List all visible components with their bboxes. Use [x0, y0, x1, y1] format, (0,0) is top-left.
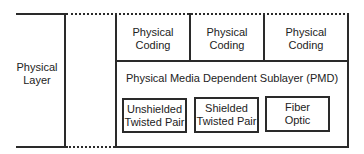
physical-coding-3-line2: Coding	[265, 39, 347, 52]
pmd-title: Physical Media Dependent Sublayer (PMD)	[117, 72, 347, 85]
physical-layer-bottom-line	[16, 146, 65, 148]
media-3-line1: Fiber	[285, 101, 311, 114]
coding-row-divider	[115, 60, 349, 62]
bottom-dotted-boundary	[66, 146, 115, 148]
physical-coding-1: Physical Coding	[117, 26, 189, 52]
media-3-line2: Optic	[285, 114, 311, 127]
physical-layer-right-line	[64, 13, 66, 148]
media-box-unshielded-twisted-pair: Unshielded Twisted Pair	[122, 98, 187, 133]
physical-coding-2: Physical Coding	[191, 26, 263, 52]
sublayer-box-bottom-edge	[115, 146, 349, 148]
media-1-line1: Unshielded	[125, 103, 185, 116]
physical-coding-3-line1: Physical	[265, 26, 347, 39]
physical-coding-2-line1: Physical	[191, 26, 263, 39]
media-2-line1: Shielded	[197, 102, 257, 115]
media-2-line2: Twisted Pair	[197, 115, 257, 128]
top-dotted-boundary	[66, 13, 349, 15]
physical-coding-1-line2: Coding	[117, 39, 189, 52]
media-box-shielded-twisted-pair: Shielded Twisted Pair	[194, 97, 259, 133]
media-box-fiber-optic: Fiber Optic	[265, 96, 330, 132]
physical-layer-label: Physical Layer	[10, 61, 64, 87]
media-1-line2: Twisted Pair	[125, 116, 185, 129]
physical-coding-3: Physical Coding	[265, 26, 347, 52]
physical-layer-line1: Physical	[10, 61, 64, 74]
sublayer-box-right-edge	[347, 13, 349, 148]
physical-layer-top-line	[16, 13, 65, 15]
physical-coding-2-line2: Coding	[191, 39, 263, 52]
physical-coding-1-line1: Physical	[117, 26, 189, 39]
physical-layer-line2: Layer	[10, 74, 64, 87]
